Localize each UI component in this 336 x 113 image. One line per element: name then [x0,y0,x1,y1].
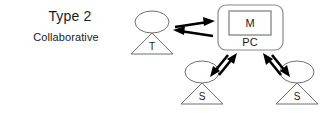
student-left-label: S [199,91,206,102]
arrow-teacher-to-pc-shaft [175,22,208,27]
arrow-student-left-to-pc-shaft [219,59,232,75]
teacher-head-icon [135,11,169,33]
student-right-label: S [294,91,301,102]
arrow-pc-to-student-left-shaft [215,55,228,71]
arrow-pc-to-teacher-shaft [180,31,213,36]
teacher-label: T [149,41,155,52]
node-pc: M PC [218,5,283,50]
pc-label: PC [242,36,257,48]
node-teacher: T [131,11,173,54]
diagram-canvas: Type 2 Collaborative T M PC S S [0,0,336,113]
arrow-teacher-to-pc-head [203,17,215,26]
arrow-teacher-to-pc [175,17,215,27]
diagram-graphic: T M PC S S [0,0,336,113]
pc-screen-label: M [245,17,254,29]
